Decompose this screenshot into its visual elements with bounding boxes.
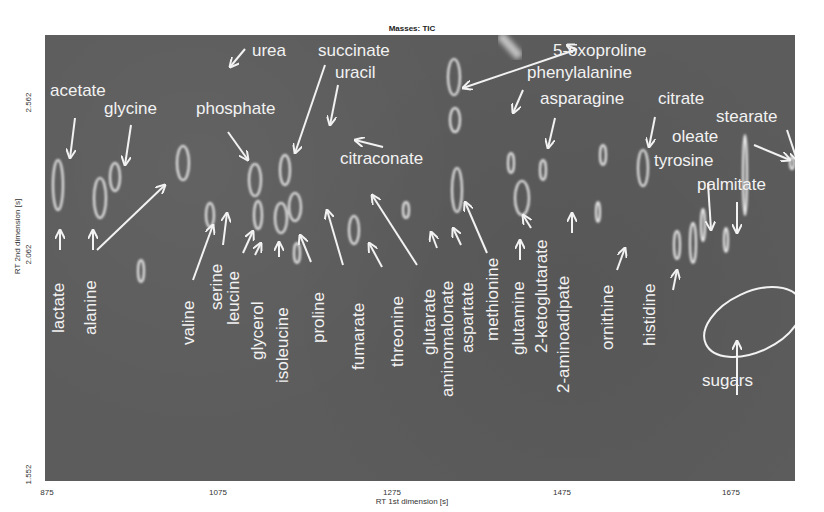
label-glycine: glycine xyxy=(104,100,157,117)
label-serine: serine xyxy=(208,264,225,310)
label-glutarate: glutarate xyxy=(421,289,438,355)
plot-area: urea succinate uracil 5-oxoproline pheny… xyxy=(45,35,795,481)
x-tick-1275: 1275 xyxy=(383,488,401,497)
label-urea: urea xyxy=(252,42,286,59)
label-leucine: leucine xyxy=(225,271,242,325)
label-valine: valine xyxy=(180,301,197,345)
cropped-caption-fragment xyxy=(40,0,800,4)
label-aminomalonate: aminomalonate xyxy=(439,281,456,397)
x-tick-875: 875 xyxy=(40,488,53,497)
label-glycerol: glycerol xyxy=(249,301,266,360)
label-uracil: uracil xyxy=(335,64,376,81)
label-acetate: acetate xyxy=(50,82,106,99)
label-phenylalanine: phenylalanine xyxy=(527,64,632,81)
label-alanine: alanine xyxy=(82,280,99,335)
y-tick-2-062: 2.062 xyxy=(24,244,33,264)
label-phosphate: phosphate xyxy=(196,100,275,117)
label-threonine: threonine xyxy=(389,296,406,367)
x-tick-1075: 1075 xyxy=(209,488,227,497)
x-tick-1675: 1675 xyxy=(722,488,740,497)
y-tick-2-562: 2.562 xyxy=(24,92,33,112)
label-histidine: histidine xyxy=(641,284,658,346)
label-2-ketoglutarate: 2-ketoglutarate xyxy=(533,240,550,353)
label-ornithine: ornithine xyxy=(599,285,616,350)
x-axis-label: RT 1st dimension [s] xyxy=(0,497,824,506)
label-oleate: oleate xyxy=(672,128,718,145)
label-proline: proline xyxy=(310,292,327,343)
label-palmitate: palmitate xyxy=(697,176,766,193)
label-methionine: methionine xyxy=(484,258,501,341)
label-sugars: sugars xyxy=(702,372,753,389)
label-lactate: lactate xyxy=(50,283,67,333)
label-citrate: citrate xyxy=(658,90,704,107)
label-isoleucine: isoleucine xyxy=(274,307,291,383)
label-tyrosine: tyrosine xyxy=(654,152,714,169)
label-glutamine: glutamine xyxy=(510,281,527,355)
y-tick-1-552: 1.552 xyxy=(24,464,33,484)
label-citraconate: citraconate xyxy=(340,150,423,167)
label-stearate: stearate xyxy=(716,108,777,125)
y-axis-label: RT 2nd dimension [s] xyxy=(13,199,22,274)
label-aspartate: aspartate xyxy=(459,282,476,353)
label-succinate: succinate xyxy=(318,42,390,59)
chart-title: Masses: TIC xyxy=(0,24,824,33)
label-fumarate: fumarate xyxy=(350,303,367,370)
label-asparagine: asparagine xyxy=(540,90,624,107)
x-tick-1475: 1475 xyxy=(553,488,571,497)
label-2-aminoadipate: 2-aminoadipate xyxy=(555,276,572,393)
label-5-oxoproline: 5-oxoproline xyxy=(553,42,647,59)
